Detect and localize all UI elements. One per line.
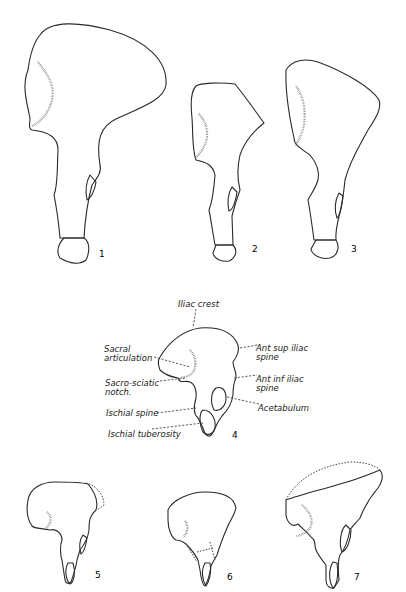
bone-figure-5 xyxy=(27,482,104,584)
bone-figure-6 xyxy=(168,492,236,586)
figure-number-6: 6 xyxy=(227,572,233,582)
figure-number-2: 2 xyxy=(252,244,258,254)
label-ant-sup-iliac-spine-line2: spine xyxy=(256,353,279,362)
bone-figure-1 xyxy=(25,24,166,263)
bone-figure-2 xyxy=(191,83,264,261)
label-ischial-tuberosity: Ischial tuberosity xyxy=(108,430,181,439)
bone-figure-4 xyxy=(152,309,259,436)
label-acetabulum: Acetabulum xyxy=(258,404,309,413)
bone-drawings: 1 2 3 4 5 xyxy=(0,0,406,592)
label-iliac-crest: Iliac crest xyxy=(178,300,219,309)
bone-figure-3 xyxy=(286,60,380,258)
bone-figure-7 xyxy=(286,462,382,588)
label-ant-inf-iliac-spine-line2: spine xyxy=(256,384,279,393)
figure-number-1: 1 xyxy=(99,249,105,259)
figure-number-3: 3 xyxy=(351,244,357,254)
label-ischial-spine: Ischial spine xyxy=(106,409,158,418)
figure-number-7: 7 xyxy=(354,572,360,582)
figure-number-5: 5 xyxy=(95,570,101,580)
label-sacral-articulation-line2: articulation xyxy=(104,354,152,363)
figure-number-4: 4 xyxy=(232,430,238,440)
label-sacro-sciatic-notch-line2: notch. xyxy=(105,388,132,397)
